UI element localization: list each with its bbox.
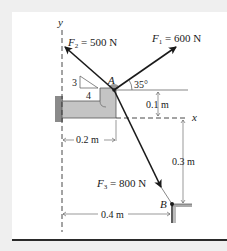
- force-f3-label: F3 = 800 N: [96, 177, 146, 191]
- dim-b-horizontal-label: 0.4 m: [101, 209, 124, 220]
- slope-triangle: [80, 76, 98, 88]
- angle-arc: [129, 80, 132, 90]
- angle-label: 35°: [134, 79, 148, 90]
- support-b: [172, 204, 192, 207]
- y-axis-label: y: [57, 16, 63, 28]
- point-a-label: A: [107, 74, 115, 86]
- dim-a-above-x-label: 0.1 m: [146, 99, 169, 110]
- slope-run-label: 4: [86, 90, 91, 101]
- force-f1-label: F1 = 600 N: [151, 32, 201, 46]
- point-b-label: B: [160, 198, 167, 210]
- dim-a-horizontal-label: 0.2 m: [76, 134, 99, 145]
- point-a: [112, 88, 116, 92]
- point-b: [170, 202, 174, 206]
- dim-b-below-x-label: 0.3 m: [172, 156, 195, 167]
- x-axis-label: x: [191, 111, 197, 123]
- slope-rise-label: 3: [72, 77, 77, 88]
- statics-diagram: y x F2 = 500 N 3 4 F1 = 600 N 35° F3 = 8…: [0, 0, 227, 251]
- force-f2-label: F2 = 500 N: [67, 36, 117, 50]
